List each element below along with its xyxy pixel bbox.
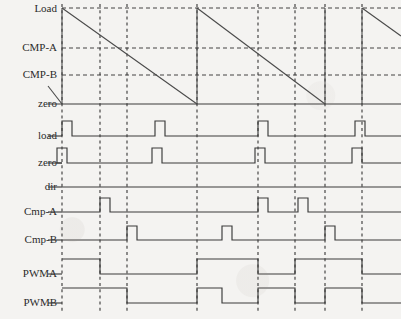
ramp-segment-3 — [197, 8, 325, 104]
signal-row-labels: load zero dir Cmp-A Cmp-B PWMA PWMB — [23, 129, 58, 308]
signal-label-cmp-a: Cmp-A — [24, 205, 57, 217]
waveform-pwmb — [62, 288, 401, 303]
signal-label-dir: dir — [45, 180, 58, 192]
counter-level-gridlines — [48, 8, 401, 104]
level-label-zero: zero — [38, 97, 57, 109]
event-marker-lines — [62, 4, 362, 314]
ramp-segment-4 — [362, 8, 401, 36]
counter-level-labels: Load CMP-A CMP-B zero — [22, 2, 57, 109]
waveform-cmp-a — [62, 198, 401, 212]
ramp-segment-2 — [62, 8, 197, 104]
timing-diagram-figure: Load CMP-A CMP-B zero load zero dir Cmp-… — [0, 0, 401, 319]
level-label-cmp-a: CMP-A — [22, 41, 57, 53]
signal-waveforms — [48, 121, 401, 303]
waveform-load — [62, 121, 401, 136]
counter-ramp-waveform — [48, 8, 401, 104]
waveform-pwma — [62, 259, 401, 274]
waveform-cmp-b — [62, 226, 401, 240]
signal-label-pwmb: PWMB — [23, 296, 57, 308]
timing-diagram-canvas: Load CMP-A CMP-B zero load zero dir Cmp-… — [0, 0, 401, 319]
signal-label-load: load — [38, 129, 57, 141]
signal-label-zero: zero — [38, 156, 57, 168]
signal-label-pwma: PWMA — [23, 267, 57, 279]
level-label-cmp-b: CMP-B — [23, 68, 57, 80]
signal-label-cmp-b: Cmp-B — [25, 233, 57, 245]
waveform-zero — [57, 148, 401, 163]
level-label-load: Load — [34, 2, 57, 14]
